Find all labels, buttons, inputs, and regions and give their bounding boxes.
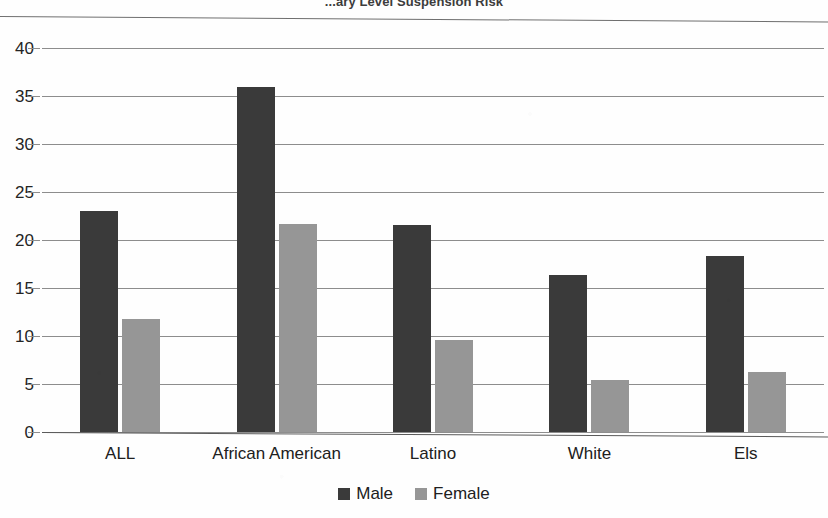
bar-white-female [591,380,629,432]
category-label-white: White [568,444,611,464]
bar-white-male [549,275,587,432]
y-axis-tick-mark [28,96,40,97]
plot-area: 0510152025303540 [42,48,824,432]
category-label-latino: Latino [410,444,456,464]
y-axis-tick-mark [28,384,40,385]
gridline-30 [42,144,824,145]
bar-els-male [706,256,744,432]
y-axis-tick-mark [28,48,40,49]
bar-latino-female [435,340,473,432]
bar-african-american-male [237,87,275,432]
legend-swatch-female-icon [415,488,427,500]
chart-page: ...ary Level Suspension Risk 05101520253… [0,0,828,518]
bar-els-female [748,372,786,432]
bar-all-female [122,319,160,432]
legend-entry-female[interactable]: Female [415,484,490,504]
y-axis-tick-mark [28,336,40,337]
bar-african-american-female [279,224,317,432]
category-label-els: Els [734,444,758,464]
gridline-20 [42,240,824,241]
legend-entry-male[interactable]: Male [338,484,393,504]
y-axis-tick-mark [28,288,40,289]
category-label-african-american: African American [212,444,341,464]
bar-latino-male [393,225,431,432]
legend-label: Female [433,484,490,504]
top-horizontal-rule [0,16,828,22]
gridline-35 [42,96,824,97]
y-axis-tick-mark [28,240,40,241]
y-axis-tick-mark [28,192,40,193]
category-label-all: ALL [105,444,135,464]
bar-all-male [80,211,118,432]
legend-swatch-male-icon [338,488,350,500]
y-axis-tick-mark [28,432,40,433]
chart-legend: MaleFemale [0,484,828,504]
gridline-25 [42,192,824,193]
legend-label: Male [356,484,393,504]
gridline-40 [42,48,824,49]
chart-title: ...ary Level Suspension Risk [0,0,828,9]
y-axis-tick-mark [28,144,40,145]
